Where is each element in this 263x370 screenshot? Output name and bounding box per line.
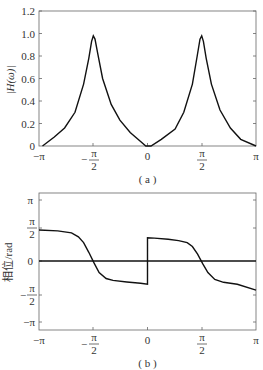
xtick-neg-pi-half-num: π [91,147,97,159]
plot-a: 1.2 1.0 0.8 0.6 0.4 0.2 0 −π − π 2 0 π 2… [4,5,259,186]
plot-a-ylabel: |H(ω)| [4,65,17,94]
xtick-0: 0 [145,334,151,346]
xtick-neg-pi-half-den: 2 [91,344,97,356]
ytick-0.4: 0.4 [21,95,35,107]
ytick-pi-half-den: 2 [29,228,35,240]
ytick-neg-pi-half-num: π [29,282,35,294]
plot-a-yticks: 1.2 1.0 0.8 0.6 0.4 0.2 0 [21,5,256,152]
ytick-pi-half-num: π [29,215,35,227]
xtick-neg-pi: −π [33,334,45,346]
xtick-pi-half-den: 2 [199,344,205,356]
ytick-1.0: 1.0 [21,28,35,40]
plot-a-xticks: −π − π 2 0 π 2 π [33,143,259,172]
xtick-neg-pi: −π [33,150,45,162]
figure: 1.2 1.0 0.8 0.6 0.4 0.2 0 −π − π 2 0 π 2… [0,0,263,370]
ytick-neg-pi-half-den: 2 [29,295,35,307]
plot-b: π π 2 0 − π 2 −π −π − π 2 0 π 2 π 相位/rad [1,193,259,370]
xtick-pi-half-num: π [199,331,205,343]
xtick-neg-pi-half-num: π [91,331,97,343]
xtick-pi-half-den: 2 [199,160,205,172]
caption-a: ( a ) [139,173,157,186]
xtick-pi: π [253,334,259,346]
ytick-neg-minus: − [20,289,26,301]
plot-a-frame [39,11,256,146]
plot-b-ylabel: 相位/rad [1,242,14,282]
phase-curve [39,230,256,290]
caption-b: ( b ) [138,357,157,370]
xtick-neg-pi-half-den: 2 [91,160,97,172]
ytick-0.2: 0.2 [21,118,35,130]
ytick-0.6: 0.6 [21,73,35,85]
magnitude-curve [43,36,257,146]
plot-b-xticks: −π − π 2 0 π 2 π [33,327,259,356]
ytick-0: 0 [28,255,34,267]
ytick-1.2: 1.2 [21,5,35,17]
ytick-pi: π [27,194,33,206]
ytick-0.8: 0.8 [21,50,35,62]
xtick-pi: π [253,150,259,162]
xtick-pi-half-num: π [199,147,205,159]
xtick-neg-minus: − [81,338,87,350]
ytick-neg-pi: −π [23,316,35,328]
xtick-0: 0 [145,150,151,162]
xtick-neg-minus: − [81,153,87,165]
